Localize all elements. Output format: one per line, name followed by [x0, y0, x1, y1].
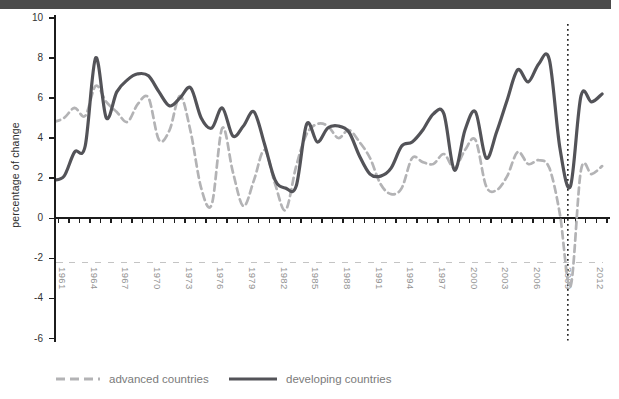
y-tick-label-4: 4	[13, 132, 43, 144]
y-tick-mark	[49, 258, 55, 260]
y-tick-mark	[49, 97, 55, 99]
advanced-countries-swatch	[55, 375, 101, 383]
y-tick-mark	[49, 137, 55, 139]
y-tick-label-10: 10	[13, 12, 43, 24]
y-tick-label-0: 0	[13, 212, 43, 224]
y-tick-label--2: -2	[13, 252, 43, 264]
plot-area	[56, 8, 619, 353]
y-tick-label--4: -4	[13, 292, 43, 304]
legend-label-developing: developing countries	[286, 373, 392, 385]
y-tick-mark	[49, 338, 55, 340]
y-tick-mark	[49, 298, 55, 300]
y-tick-label-2: 2	[13, 172, 43, 184]
y-tick-label--6: -6	[13, 333, 43, 345]
advanced-countries-line	[56, 86, 602, 287]
developing-countries-line	[56, 54, 602, 192]
gdp-growth-chart-figure: percentage of change 1086420-2-4-6 19611…	[0, 0, 619, 399]
y-tick-mark	[49, 177, 55, 179]
legend-item-developing: developing countries	[228, 372, 392, 386]
y-tick-label-6: 6	[13, 92, 43, 104]
legend-label-advanced: advanced countries	[109, 373, 209, 385]
y-tick-label-8: 8	[13, 52, 43, 64]
y-tick-mark	[49, 218, 55, 220]
developing-countries-swatch	[228, 375, 278, 383]
y-tick-mark	[49, 17, 55, 19]
legend-item-advanced: advanced countries	[55, 372, 209, 386]
y-tick-mark	[49, 57, 55, 59]
